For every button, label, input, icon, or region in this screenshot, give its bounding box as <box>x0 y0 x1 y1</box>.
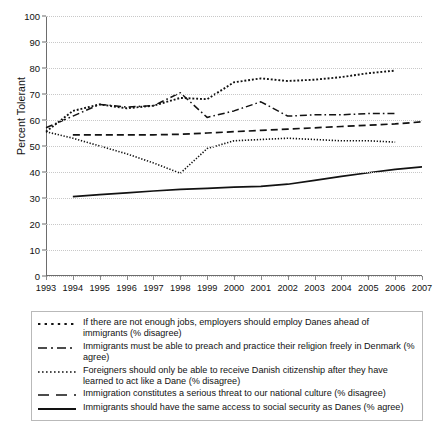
y-tick-label: 0 <box>35 271 40 282</box>
gridline <box>46 120 422 121</box>
x-tick-label: 1997 <box>143 283 163 293</box>
chart-figure: Percent Tolerant 01020304050607080901001… <box>0 0 436 444</box>
legend-line-swatch <box>37 389 77 401</box>
x-tick-mark <box>127 276 128 280</box>
x-tick-label: 2005 <box>358 283 378 293</box>
gridline <box>46 172 422 173</box>
x-tick-label: 1993 <box>36 283 56 293</box>
y-tick-mark <box>42 120 46 121</box>
x-tick-mark <box>395 276 396 280</box>
x-tick-label: 1996 <box>116 283 136 293</box>
chart-legend: If there are not enough jobs, employers … <box>31 311 423 421</box>
y-tick-mark <box>42 224 46 225</box>
x-tick-mark <box>180 276 181 280</box>
y-tick-label: 70 <box>29 89 40 100</box>
legend-line-swatch <box>37 342 77 354</box>
gridline <box>46 68 422 69</box>
x-tick-label: 2000 <box>224 283 244 293</box>
x-tick-label: 1998 <box>170 283 190 293</box>
x-tick-label: 1994 <box>63 283 83 293</box>
gridline <box>46 94 422 95</box>
x-tick-mark <box>46 276 47 280</box>
gridline <box>46 250 422 251</box>
x-tick-mark <box>261 276 262 280</box>
legend-label: Immigrants must be able to preach and pr… <box>83 341 416 364</box>
y-tick-mark <box>42 68 46 69</box>
x-tick-mark <box>207 276 208 280</box>
y-tick-label: 100 <box>24 11 40 22</box>
y-tick-label: 30 <box>29 193 40 204</box>
x-tick-mark <box>73 276 74 280</box>
gridline <box>46 198 422 199</box>
y-tick-mark <box>42 146 46 147</box>
x-tick-mark <box>341 276 342 280</box>
x-tick-mark <box>368 276 369 280</box>
legend-line-swatch <box>37 318 77 330</box>
y-tick-mark <box>42 42 46 43</box>
legend-line-swatch <box>37 403 77 415</box>
x-tick-mark <box>234 276 235 280</box>
y-tick-label: 50 <box>29 141 40 152</box>
y-tick-mark <box>42 94 46 95</box>
y-tick-label: 90 <box>29 37 40 48</box>
gridline <box>46 42 422 43</box>
gridline <box>46 146 422 147</box>
x-tick-mark <box>422 276 423 280</box>
legend-item: Foreigners should only be able to receiv… <box>37 365 416 388</box>
legend-label: Immigrants should have the same access t… <box>83 402 416 413</box>
series-line <box>46 132 395 174</box>
series-line <box>46 93 395 128</box>
y-tick-label: 10 <box>29 245 40 256</box>
y-tick-label: 40 <box>29 167 40 178</box>
legend-line-swatch <box>37 366 77 378</box>
series-line <box>73 122 422 135</box>
y-tick-label: 20 <box>29 219 40 230</box>
x-tick-label: 2001 <box>251 283 271 293</box>
x-tick-mark <box>100 276 101 280</box>
x-tick-label: 2003 <box>304 283 324 293</box>
y-tick-mark <box>42 172 46 173</box>
plot-canvas: 0102030405060708090100199319941995199619… <box>46 16 422 276</box>
x-tick-mark <box>315 276 316 280</box>
legend-item: If there are not enough jobs, employers … <box>37 317 416 340</box>
x-tick-label: 2006 <box>385 283 405 293</box>
x-tick-label: 2004 <box>331 283 351 293</box>
plot-area: Percent Tolerant 01020304050607080901001… <box>0 0 436 300</box>
y-axis-label: Percent Tolerant <box>15 51 27 181</box>
legend-label: If there are not enough jobs, employers … <box>83 317 416 340</box>
y-tick-mark <box>42 198 46 199</box>
gridline <box>46 224 422 225</box>
legend-item: Immigrants must be able to preach and pr… <box>37 341 416 364</box>
legend-item: Immigration constitutes a serious threat… <box>37 388 416 401</box>
y-tick-mark <box>42 16 46 17</box>
x-tick-mark <box>153 276 154 280</box>
y-tick-label: 60 <box>29 115 40 126</box>
y-tick-mark <box>42 250 46 251</box>
legend-label: Foreigners should only be able to receiv… <box>83 365 416 388</box>
legend-item: Immigrants should have the same access t… <box>37 402 416 415</box>
x-tick-label: 1995 <box>89 283 109 293</box>
x-tick-mark <box>288 276 289 280</box>
y-tick-label: 80 <box>29 63 40 74</box>
x-tick-label: 1999 <box>197 283 217 293</box>
x-tick-label: 2007 <box>412 283 432 293</box>
legend-label: Immigration constitutes a serious threat… <box>83 388 416 399</box>
series-line <box>46 71 395 132</box>
x-tick-label: 2002 <box>277 283 297 293</box>
gridline <box>46 16 422 17</box>
